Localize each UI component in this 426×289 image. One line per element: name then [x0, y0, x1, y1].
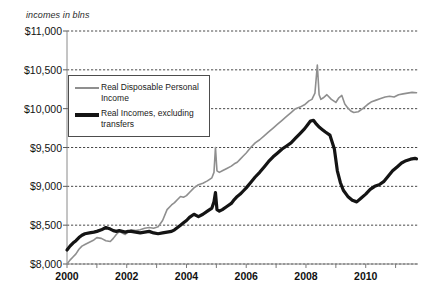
- y-axis-tick-label: $8,500: [4, 219, 62, 231]
- chart-plot-area: [0, 0, 426, 289]
- y-axis-tick-labels: $8,000$8,500$9,000$9,500$10,000$10,500$1…: [0, 0, 62, 289]
- x-axis-tick-label: 2008: [294, 270, 317, 282]
- x-axis-tick-label: 2006: [235, 270, 258, 282]
- y-axis-tick-label: $11,000: [4, 25, 62, 37]
- y-axis-tick-label: $10,500: [4, 64, 62, 76]
- y-axis-tick-label: $9,500: [4, 142, 62, 154]
- legend-item-real-disposable-personal-income: Real Disposable Personal Income: [75, 82, 204, 103]
- series-line-real-incomes-excluding-transfers: [67, 120, 417, 250]
- chart-container: incomes in blns $8,000$8,500$9,000$9,500…: [0, 0, 426, 289]
- legend-label: Real Disposable Personal Income: [101, 82, 204, 103]
- x-axis-tick-label: 2010: [354, 270, 377, 282]
- chart-legend: Real Disposable Personal Income Real Inc…: [68, 75, 210, 137]
- legend-item-real-incomes-excluding-transfers: Real Incomes, excluding transfers: [75, 108, 204, 129]
- legend-label: Real Incomes, excluding transfers: [101, 108, 204, 129]
- x-axis-tick-label: 2002: [115, 270, 138, 282]
- y-axis-tick-label: $10,000: [4, 103, 62, 115]
- y-axis-tick-label: $8,000: [4, 258, 62, 270]
- x-axis-tick-label: 2004: [175, 270, 198, 282]
- x-axis-tick-label: 2000: [55, 270, 78, 282]
- y-axis-tick-label: $9,000: [4, 180, 62, 192]
- legend-line-swatch-black-icon: [75, 113, 99, 117]
- legend-line-swatch-gray-icon: [75, 87, 99, 89]
